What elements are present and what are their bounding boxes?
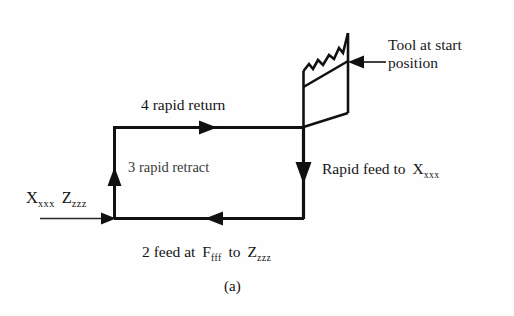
feed-target-symbol: Z (248, 243, 257, 260)
tool-label-line-2: position (388, 54, 462, 72)
feed-to-text: to (229, 243, 241, 260)
feed-rate-symbol: F (202, 243, 211, 260)
tool-leader-arrow (348, 56, 386, 69)
start-axis-x-symbol: X (26, 188, 38, 207)
tool-bottom-edge (304, 113, 349, 127)
rapid-feed-axis-symbol: X (413, 160, 424, 177)
tool-start-position-label: Tool at start position (388, 36, 462, 73)
arrowhead-up-rapid-retract (108, 167, 122, 186)
figure-container: Tool at start position 4 rapid return 3 … (0, 0, 514, 316)
tool-label-line-1: Tool at start (388, 36, 462, 54)
rapid-feed-label: Rapid feed toXxxx (322, 160, 440, 178)
feed-segment-label: 2 feed atFffftoZzzz (142, 243, 271, 261)
rapid-feed-text: Rapid feed to (322, 160, 406, 177)
leader-arrowhead (348, 56, 364, 69)
feed-rate-subscript: fff (211, 252, 222, 263)
start-axis-z-symbol: Z (62, 188, 72, 207)
rapid-return-label: 4 rapid return (141, 96, 225, 114)
tool-workpiece-shape (304, 33, 350, 127)
rapid-retract-label: 3 rapid retract (128, 159, 209, 176)
figure-caption: (a) (224, 278, 241, 296)
start-coordinates-label: XxxxZzzz (26, 188, 87, 207)
entry-arrow (40, 213, 116, 225)
start-axis-x-subscript: xxx (38, 198, 55, 209)
arrowhead-right-rapid-return (199, 121, 217, 135)
feed-prefix-text: 2 feed at (142, 243, 195, 260)
rapid-feed-axis-subscript: xxx (424, 169, 440, 180)
start-axis-z-subscript: zzz (72, 198, 87, 209)
arrowhead-left-feed (205, 212, 223, 226)
feed-target-subscript: zzz (257, 252, 271, 263)
arrowhead-down-rapid-feed (296, 162, 312, 184)
